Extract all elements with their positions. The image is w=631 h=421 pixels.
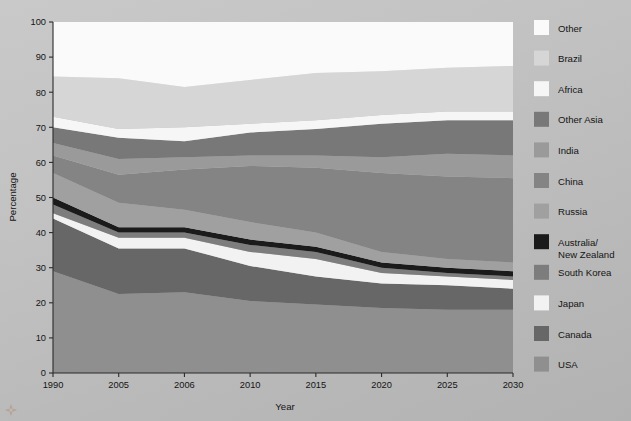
y-tick-label: 100 bbox=[30, 17, 46, 27]
area-bands-group bbox=[53, 22, 513, 373]
y-tick-label: 50 bbox=[36, 193, 46, 203]
y-tick-label: 20 bbox=[36, 298, 46, 308]
x-axis-title: Year bbox=[275, 401, 295, 412]
legend-label: Japan bbox=[558, 298, 584, 309]
x-axis-ticks: 19902005200620102015202020252030 bbox=[43, 373, 524, 390]
legend-label: Other Asia bbox=[558, 114, 603, 125]
legend-swatch-russia bbox=[534, 204, 549, 219]
x-tick-label: 2005 bbox=[108, 380, 129, 390]
legend-swatch-japan bbox=[534, 295, 549, 310]
chart-svg: 0102030405060708090100 19902005200620102… bbox=[0, 0, 631, 421]
x-tick-label: 1990 bbox=[43, 380, 64, 390]
y-tick-label: 10 bbox=[36, 333, 46, 343]
legend-swatch-africa bbox=[534, 81, 549, 96]
y-axis-ticks: 0102030405060708090100 bbox=[30, 17, 53, 378]
legend-swatch-india bbox=[534, 142, 549, 157]
x-tick-label: 2010 bbox=[240, 380, 261, 390]
y-tick-label: 80 bbox=[36, 88, 46, 98]
x-tick-label: 2006 bbox=[174, 380, 195, 390]
stacked-area-chart: 0102030405060708090100 19902005200620102… bbox=[0, 0, 631, 421]
legend-label: China bbox=[558, 176, 584, 187]
legend-label: Russia bbox=[558, 206, 588, 217]
legend-swatch-china bbox=[534, 173, 549, 188]
legend-label: Other bbox=[558, 23, 583, 34]
legend-label: Africa bbox=[558, 84, 583, 95]
y-tick-label: 90 bbox=[36, 52, 46, 62]
y-tick-label: 0 bbox=[41, 368, 46, 378]
x-tick-label: 2025 bbox=[437, 380, 458, 390]
x-tick-label: 2015 bbox=[306, 380, 327, 390]
legend-label: Canada bbox=[558, 329, 592, 340]
legend-swatch-usa bbox=[534, 357, 549, 372]
legend-label: USA bbox=[558, 359, 578, 370]
corner-decoration-mark bbox=[5, 404, 17, 416]
legend-label: Brazil bbox=[558, 53, 582, 64]
legend-swatch-other-asia bbox=[534, 112, 549, 127]
legend-swatch-canada bbox=[534, 326, 549, 341]
legend-label-line2: New Zealand bbox=[558, 249, 615, 260]
y-tick-label: 60 bbox=[36, 158, 46, 168]
y-tick-label: 30 bbox=[36, 263, 46, 273]
legend-label: India bbox=[558, 145, 579, 156]
legend-swatch-brazil bbox=[534, 51, 549, 66]
legend-swatch-australia bbox=[534, 234, 549, 249]
legend-label: South Korea bbox=[558, 267, 612, 278]
legend-label: Australia/ bbox=[558, 237, 598, 248]
chart-legend: OtherBrazilAfricaOther AsiaIndiaChinaRus… bbox=[534, 20, 615, 372]
x-tick-label: 2020 bbox=[371, 380, 392, 390]
y-tick-label: 40 bbox=[36, 228, 46, 238]
legend-swatch-other bbox=[534, 20, 549, 35]
y-axis-title: Percentage bbox=[7, 172, 18, 221]
legend-swatch-south-korea bbox=[534, 265, 549, 280]
x-tick-label: 2030 bbox=[503, 380, 524, 390]
y-tick-label: 70 bbox=[36, 123, 46, 133]
